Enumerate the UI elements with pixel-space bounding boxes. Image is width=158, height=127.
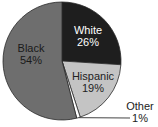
label-white-name: White [68, 24, 108, 36]
label-white-pct: 26% [68, 36, 108, 48]
label-other-pct: 1% [124, 112, 156, 124]
label-other-name: Other [124, 100, 156, 112]
label-other: Other 1% [124, 100, 156, 124]
label-white: White 26% [68, 24, 108, 48]
label-black-name: Black [14, 42, 48, 54]
label-black: Black 54% [14, 42, 48, 66]
label-hispanic: Hispanic 19% [68, 70, 118, 94]
label-hispanic-name: Hispanic [68, 70, 118, 82]
label-hispanic-pct: 19% [68, 82, 118, 94]
label-black-pct: 54% [14, 54, 48, 66]
